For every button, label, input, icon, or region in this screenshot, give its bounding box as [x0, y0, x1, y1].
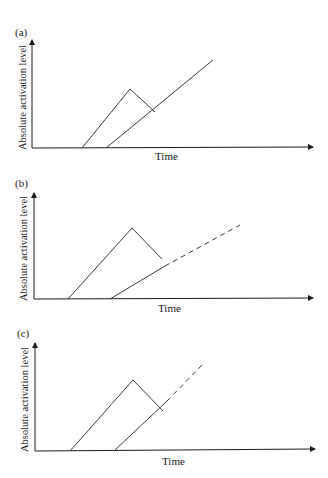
x-axis — [35, 449, 315, 451]
y-axis-label: Absolute activation level — [19, 347, 30, 452]
activation-line-2-projection — [167, 365, 202, 401]
activation-line-1 — [70, 380, 163, 451]
panel-label: (c) — [17, 327, 29, 339]
activation-line-2 — [114, 401, 167, 451]
panel-c: (c) Absolute activation level Time — [0, 0, 328, 478]
panel-c-plot — [0, 0, 328, 478]
x-axis-label: Time — [162, 455, 185, 467]
